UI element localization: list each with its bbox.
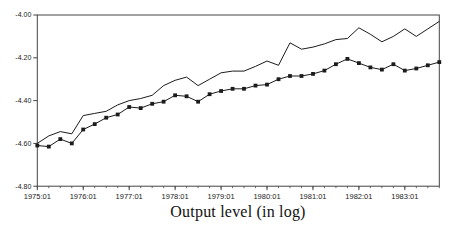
square-data-point-marker: [47, 145, 51, 149]
square-data-point-marker: [254, 84, 258, 88]
square-data-point-marker: [323, 69, 327, 73]
x-axis-tick-label: 1980:01: [253, 192, 280, 201]
square-data-point-marker: [357, 61, 361, 65]
series-upper-line-plain: [37, 21, 439, 143]
square-data-point-marker: [35, 144, 39, 148]
output-level-chart: -4.00-4.20-4.40-4.60-4.801975:011976:011…: [0, 0, 452, 232]
x-axis-tick-label: 1975:01: [24, 192, 51, 201]
chart-figure: -4.00-4.20-4.40-4.60-4.801975:011976:011…: [0, 0, 452, 232]
square-data-point-marker: [139, 106, 143, 110]
x-axis-tick-label: 1982:01: [345, 192, 372, 201]
x-axis-tick-label: 1978:01: [162, 192, 189, 201]
square-data-point-marker: [104, 116, 108, 120]
square-data-point-marker: [242, 87, 246, 91]
square-data-point-marker: [300, 74, 304, 78]
square-data-point-marker: [414, 67, 418, 71]
square-data-point-marker: [403, 69, 407, 73]
square-data-point-marker: [380, 68, 384, 72]
square-data-point-marker: [288, 74, 292, 78]
square-data-point-marker: [437, 60, 441, 64]
square-data-point-marker: [369, 66, 373, 70]
x-axis-tick-label: 1983:01: [391, 192, 418, 201]
square-data-point-marker: [127, 105, 131, 109]
square-data-point-marker: [208, 92, 212, 96]
square-data-point-marker: [150, 102, 154, 106]
square-data-point-marker: [81, 128, 85, 132]
square-data-point-marker: [231, 87, 235, 91]
chart-title: Output level (in log): [37, 203, 439, 221]
square-data-point-marker: [219, 89, 223, 93]
square-data-point-marker: [311, 72, 315, 76]
square-data-point-marker: [162, 100, 166, 104]
x-axis-tick-label: 1977:01: [116, 192, 143, 201]
square-data-point-marker: [265, 83, 269, 87]
y-axis-tick-label: -4.00: [15, 11, 31, 18]
square-data-point-marker: [346, 57, 350, 61]
square-data-point-marker: [185, 94, 189, 98]
y-axis-tick-label: -4.80: [15, 183, 31, 190]
series-lower-line-square-markers: [37, 59, 439, 147]
square-data-point-marker: [70, 142, 74, 146]
x-axis-tick-label: 1981:01: [299, 192, 326, 201]
square-data-point-marker: [173, 93, 177, 97]
square-data-point-marker: [392, 62, 396, 66]
square-data-point-marker: [58, 137, 62, 141]
square-data-point-marker: [277, 77, 281, 81]
square-data-point-marker: [93, 122, 97, 126]
square-data-point-marker: [116, 113, 120, 117]
square-data-point-marker: [334, 62, 338, 66]
square-data-point-marker: [426, 63, 430, 67]
x-axis-tick-label: 1979:01: [208, 192, 235, 201]
plot-border: [37, 15, 439, 186]
square-data-point-marker: [196, 100, 200, 104]
y-axis-tick-label: -4.60: [15, 140, 31, 147]
x-axis-tick-label: 1976:01: [70, 192, 97, 201]
y-axis-tick-label: -4.20: [15, 54, 31, 61]
y-axis-tick-label: -4.40: [15, 97, 31, 104]
